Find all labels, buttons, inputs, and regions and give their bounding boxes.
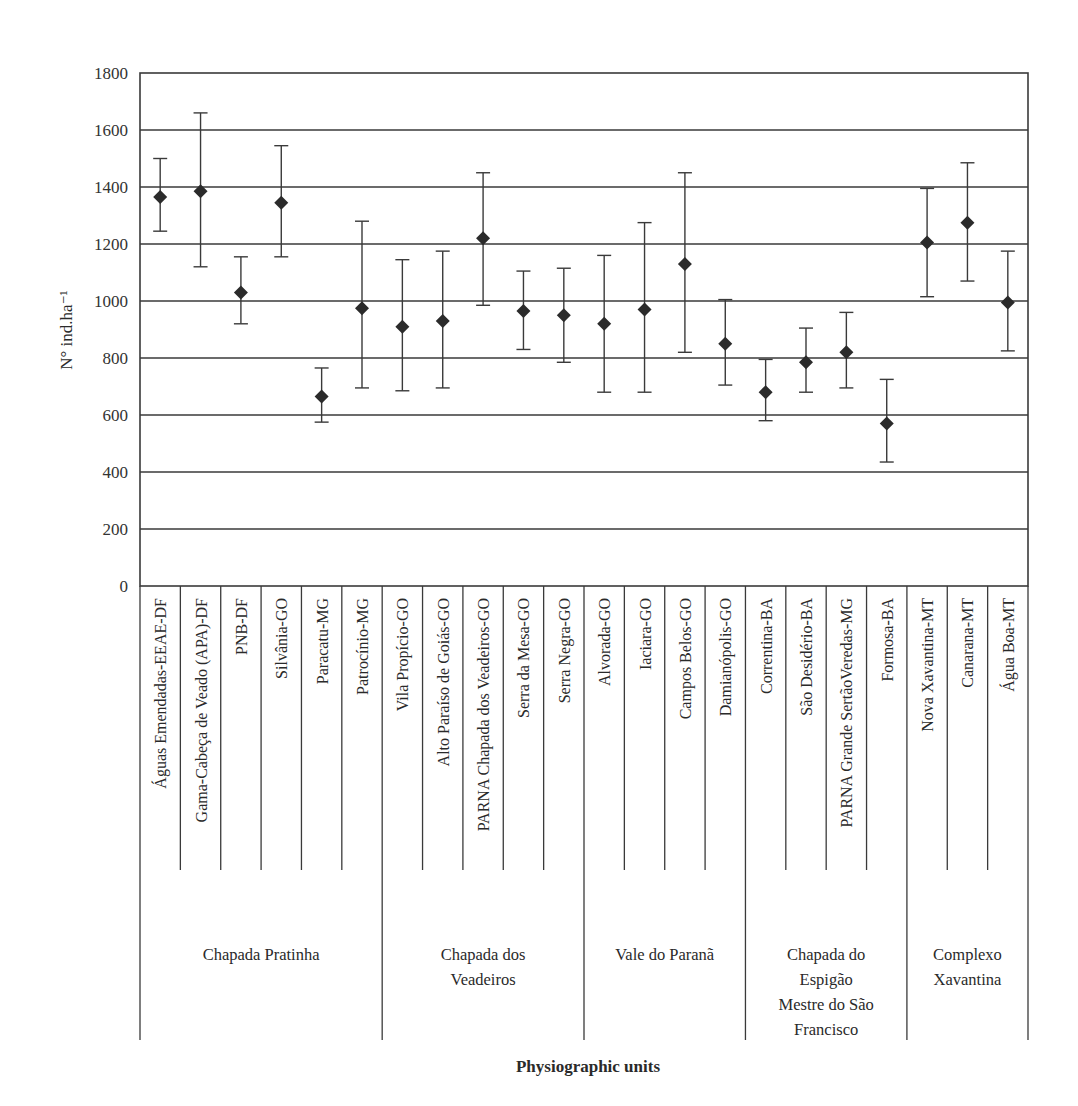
category-label: São Desidério-BA xyxy=(798,598,815,716)
error-bars xyxy=(153,113,1015,462)
diamond-marker xyxy=(355,301,369,315)
y-tick-label: 200 xyxy=(103,520,129,539)
diamond-marker xyxy=(153,190,167,204)
y-tick-label: 1400 xyxy=(94,178,128,197)
y-tick-label: 800 xyxy=(103,349,129,368)
group-label-line: Chapada dos xyxy=(441,945,526,964)
category-label: Água Boa-MT xyxy=(999,598,1018,692)
group-label: Chapada doEspigãoMestre do SãoFrancisco xyxy=(779,945,874,1039)
category-label: Iaciara-GO xyxy=(637,598,654,670)
group-labels: Chapada PratinhaChapada dosVeadeirosVale… xyxy=(203,945,1002,1039)
data-markers xyxy=(153,184,1015,430)
y-tick-label: 1800 xyxy=(94,64,128,83)
diamond-marker xyxy=(557,308,571,322)
diamond-marker xyxy=(839,345,853,359)
group-label: ComplexoXavantina xyxy=(933,945,1002,989)
diamond-marker xyxy=(274,196,288,210)
category-label: Campos Belos-GO xyxy=(677,598,695,719)
error-bar-chart: N° ind.ha⁻¹ 0200400600800100012001400160… xyxy=(0,0,1078,1106)
diamond-marker xyxy=(234,285,248,299)
group-label-line: Espigão xyxy=(800,970,853,989)
category-label: PARNA Chapada dos Veadeiros-GO xyxy=(475,598,493,831)
diamond-marker xyxy=(1001,295,1015,309)
diamond-marker xyxy=(516,304,530,318)
group-label: Chapada Pratinha xyxy=(203,945,321,964)
y-tick-label: 600 xyxy=(103,406,129,425)
group-label-line: Vale do Paranã xyxy=(615,945,715,964)
diamond-marker xyxy=(759,385,773,399)
group-label-line: Xavantina xyxy=(934,970,1002,989)
y-tick-label: 400 xyxy=(103,463,129,482)
diamond-marker xyxy=(597,317,611,331)
plot-border xyxy=(140,73,1028,586)
category-label: Nova Xavantina-MT xyxy=(919,598,936,732)
diamond-marker xyxy=(315,389,329,403)
group-label: Vale do Paranã xyxy=(615,945,715,964)
y-tick-label: 1000 xyxy=(94,292,128,311)
y-tick-labels: 020040060080010001200140016001800 xyxy=(94,64,128,596)
category-label: PARNA Grande SertãoVeredas-MG xyxy=(838,598,855,828)
plot-frame xyxy=(140,73,1028,586)
category-label-table: Águas Emendadas-EEAE-DFGama-Cabeça de Ve… xyxy=(140,586,1028,1040)
category-label: Águas Emendadas-EEAE-DF xyxy=(151,598,170,789)
group-label-line: Complexo xyxy=(933,945,1002,964)
horizontal-gridlines xyxy=(140,130,1028,529)
group-label-line: Mestre do São xyxy=(779,995,874,1014)
category-label: Correntina-BA xyxy=(758,598,775,694)
group-label-line: Chapada Pratinha xyxy=(203,945,321,964)
category-label: Serra da Mesa-GO xyxy=(515,598,532,718)
category-label: Patrocínio-MG xyxy=(354,598,371,695)
diamond-marker xyxy=(920,236,934,250)
y-axis-title-group: N° ind.ha⁻¹ xyxy=(57,290,76,369)
group-label: Chapada dosVeadeiros xyxy=(441,945,526,989)
category-label: Alto Paraíso de Goiás-GO xyxy=(435,598,452,766)
group-label-line: Veadeiros xyxy=(451,970,516,989)
category-label: PNB-DF xyxy=(233,598,250,655)
y-tick-label: 1600 xyxy=(94,121,128,140)
category-label: Formosa-BA xyxy=(879,598,896,682)
category-label: Damianópolis-GO xyxy=(717,598,735,716)
category-label: Alvorada-GO xyxy=(596,598,613,686)
x-axis-title: Physiographic units xyxy=(516,1057,660,1076)
group-label-line: Chapada do xyxy=(787,945,865,964)
diamond-marker xyxy=(718,337,732,351)
diamond-marker xyxy=(880,417,894,431)
category-label: Canarana-MT xyxy=(959,598,976,688)
y-tick-label: 0 xyxy=(120,577,129,596)
category-label: Paracatu-MG xyxy=(314,598,331,685)
diamond-marker xyxy=(395,320,409,334)
y-axis-title: N° ind.ha⁻¹ xyxy=(57,290,76,369)
category-label: Vila Propício-GO xyxy=(394,598,412,711)
diamond-marker xyxy=(436,314,450,328)
y-tick-label: 1200 xyxy=(94,235,128,254)
category-label: Gama-Cabeça de Veado (APA)-DF xyxy=(193,598,211,822)
category-label: Silvânia-GO xyxy=(273,598,290,679)
diamond-marker xyxy=(638,303,652,317)
diamond-marker xyxy=(960,216,974,230)
diamond-marker xyxy=(678,257,692,271)
category-label: Serra Negra-GO xyxy=(556,598,574,703)
group-label-line: Francisco xyxy=(794,1020,858,1039)
